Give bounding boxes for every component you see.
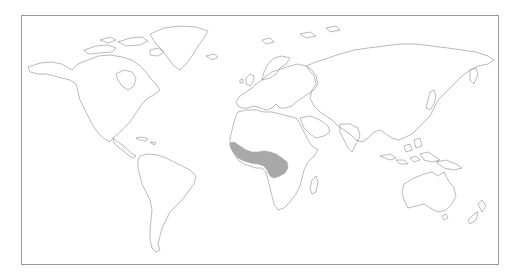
north-america [28,55,160,142]
south-america [138,154,196,252]
scandinavia [262,56,290,80]
highlighted-range-west-central-africa [230,142,288,178]
madagascar [310,176,318,194]
continent-outlines [28,26,494,252]
hudson-bay [116,70,136,90]
new-zealand [468,200,486,224]
caribbean-islands [136,137,156,145]
asia [306,44,494,142]
southeast-asia-islands [380,138,440,164]
europe [236,64,318,110]
greenland [150,26,208,70]
arabian-peninsula [300,116,330,138]
australia [402,172,456,212]
new-guinea [436,160,462,170]
indian-subcontinent [340,124,360,152]
central-america [113,138,136,158]
canadian-arctic-islands [84,37,164,56]
kamchatka [470,68,478,84]
tasmania [442,214,448,220]
iceland [206,54,218,60]
world-map [0,0,512,277]
arctic-islands [262,26,340,44]
british-isles [240,74,254,86]
